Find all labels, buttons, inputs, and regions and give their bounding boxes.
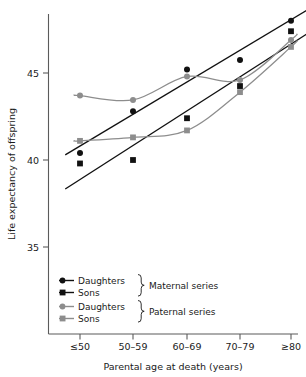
legend-label-maternal-daughters: Daughters (78, 276, 125, 286)
legend-item-paternal-daughters[interactable]: Daughters (59, 302, 125, 312)
trendline-maternal-sons (65, 34, 306, 189)
legend-label-paternal-sons: Sons (78, 314, 100, 324)
point-paternal-sons (288, 44, 294, 50)
point-paternal-daughters (237, 77, 243, 83)
legend-group-label-maternal: Maternal series (149, 281, 218, 291)
trendline-paternal-sons (74, 41, 298, 141)
chart-legend: Daughters Sons Maternal series Daughters (59, 275, 218, 325)
point-maternal-sons (288, 28, 294, 34)
y-axis-title: Life expectancy of offspring (6, 108, 17, 240)
legend-item-maternal-sons[interactable]: Sons (59, 288, 100, 298)
legend-brace-paternal-icon (138, 301, 144, 323)
point-paternal-daughters (184, 73, 190, 79)
trend-lines (65, 10, 306, 189)
legend-square-marker-icon (60, 290, 66, 296)
legend-brace-maternal-icon (138, 275, 144, 297)
x-tick-label-2: 50–59 (119, 341, 148, 352)
x-tick-label-3: 60–69 (173, 341, 202, 352)
y-tick-label-35: 35 (27, 242, 39, 253)
x-axis: ≤50 50–59 60–69 70–79 ≥80 Parental age a… (49, 334, 302, 372)
legend-square-marker-icon (60, 316, 66, 322)
point-maternal-sons (77, 161, 83, 167)
scatter-plot: 45 40 35 Life expectancy of offspring ≤5… (0, 0, 306, 377)
point-maternal-daughters (77, 150, 83, 156)
x-tick-label-4: 70–79 (226, 341, 255, 352)
legend-group-label-paternal: Paternal series (149, 307, 216, 317)
point-paternal-daughters (77, 93, 83, 99)
point-maternal-daughters (130, 108, 136, 114)
legend-label-paternal-daughters: Daughters (78, 302, 125, 312)
legend-circle-marker-icon (60, 304, 66, 310)
data-points (77, 18, 294, 167)
point-paternal-sons (130, 134, 136, 140)
point-maternal-sons (130, 157, 136, 163)
y-axis: 45 40 35 Life expectancy of offspring (6, 14, 49, 334)
point-maternal-sons (237, 83, 243, 89)
point-maternal-daughters (184, 67, 190, 73)
legend-circle-marker-icon (60, 278, 66, 284)
y-tick-label-40: 40 (27, 155, 39, 166)
point-paternal-daughters (130, 97, 136, 103)
legend-label-maternal-sons: Sons (78, 288, 100, 298)
y-tick-label-45: 45 (27, 68, 39, 79)
legend-item-maternal-daughters[interactable]: Daughters (59, 276, 125, 286)
x-tick-label-1: ≤50 (70, 341, 90, 352)
point-paternal-sons (184, 128, 190, 134)
point-maternal-daughters (237, 57, 243, 63)
x-tick-label-5: ≥80 (281, 341, 301, 352)
chart-figure: 45 40 35 Life expectancy of offspring ≤5… (0, 0, 306, 377)
point-paternal-daughters (288, 37, 294, 43)
point-maternal-daughters (288, 18, 294, 24)
point-maternal-sons (184, 115, 190, 121)
legend-item-paternal-sons[interactable]: Sons (59, 314, 100, 324)
x-axis-title: Parental age at death (years) (103, 361, 242, 372)
point-paternal-sons (77, 138, 83, 144)
point-paternal-sons (237, 89, 243, 95)
